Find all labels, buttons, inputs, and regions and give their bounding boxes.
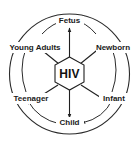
- stage-label-fetus: Fetus: [59, 16, 81, 25]
- stage-label-teenager: Teenager: [14, 94, 49, 103]
- diagram-canvas: Fetus Newborn Infant Child Teenager Youn…: [0, 0, 139, 143]
- stage-label-child: Child: [60, 118, 80, 127]
- stage-label-infant: Infant: [103, 94, 125, 103]
- stage-label-newborn: Newborn: [96, 43, 130, 52]
- hiv-core-label: HIV: [59, 67, 80, 81]
- hiv-lifecycle-diagram: Fetus Newborn Infant Child Teenager Youn…: [0, 0, 139, 143]
- stage-label-young-adults: Young Adults: [9, 43, 61, 52]
